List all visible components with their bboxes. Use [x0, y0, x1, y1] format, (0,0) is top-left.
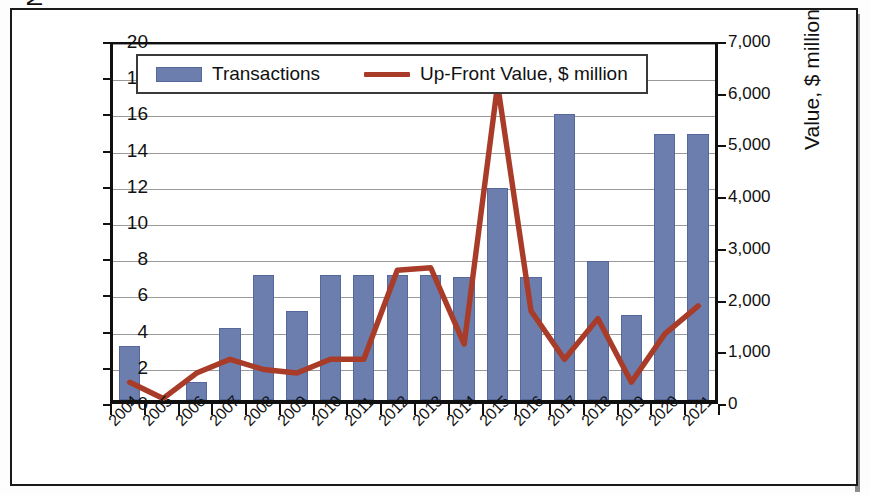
- y-axis-left-title: Number of Transactions: [22, 0, 52, 50]
- y-axis-right-tickmark: [718, 197, 726, 199]
- line-series: [113, 44, 715, 400]
- y-axis-right-tickmark: [718, 94, 726, 96]
- y-axis-left-tick-label: 6: [108, 285, 148, 304]
- y-axis-left-tickmark: [103, 42, 111, 44]
- y-axis-left-tickmark: [103, 78, 111, 80]
- y-axis-left-tick-label: 14: [108, 141, 148, 160]
- x-axis-labels: 2004200520062007200820092010201120122013…: [110, 417, 718, 477]
- legend-entry-up-front-value: Up-Front Value, $ million: [364, 63, 628, 85]
- legend-entry-transactions: Transactions: [156, 63, 320, 85]
- y-axis-left-tickmark: [103, 114, 111, 116]
- scanned-page: Number of Transactions Value, $ million …: [0, 0, 870, 495]
- y-axis-right-tick-label: 6,000: [728, 85, 798, 102]
- y-axis-left-tickmark: [103, 259, 111, 261]
- y-axis-right-tickmark: [718, 301, 726, 303]
- up-front-value-line: [130, 85, 699, 399]
- chart-legend: Transactions Up-Front Value, $ million: [136, 54, 648, 94]
- y-axis-left-tick-label: 8: [108, 249, 148, 268]
- y-axis-left-tick-label: 4: [108, 322, 148, 341]
- y-axis-left-tickmark: [103, 295, 111, 297]
- y-axis-right-tick-label: 1,000: [728, 343, 798, 360]
- y-axis-right-tick-label: 2,000: [728, 292, 798, 309]
- legend-label-up-front-value: Up-Front Value, $ million: [420, 63, 628, 85]
- y-axis-right-tick-label: 3,000: [728, 240, 798, 257]
- y-axis-left-tickmark: [103, 187, 111, 189]
- y-axis-left-tick-label: 16: [108, 104, 148, 123]
- combo-chart: Number of Transactions Value, $ million …: [0, 0, 870, 495]
- legend-bar-swatch-icon: [156, 67, 202, 82]
- y-axis-left-tick-label: 2: [108, 358, 148, 377]
- legend-line-swatch-icon: [364, 72, 410, 77]
- y-axis-right-tick-label: 0: [728, 395, 798, 412]
- y-axis-left-tick-label: 12: [108, 177, 148, 196]
- y-axis-left-tickmark: [103, 223, 111, 225]
- y-axis-right-tickmark: [718, 42, 726, 44]
- y-axis-right-tick-label: 5,000: [728, 136, 798, 153]
- y-axis-right-tickmark: [718, 352, 726, 354]
- y-axis-left-tickmark: [103, 332, 111, 334]
- x-axis-tickmark: [718, 404, 720, 415]
- y-axis-left-tick-label: 10: [108, 213, 148, 232]
- y-axis-left-tickmark: [103, 151, 111, 153]
- y-axis-right-tick-label: 7,000: [728, 33, 798, 50]
- plot-area: [110, 42, 718, 404]
- y-axis-right-tickmark: [718, 249, 726, 251]
- legend-label-transactions: Transactions: [212, 63, 320, 85]
- y-axis-left-tickmark: [103, 368, 111, 370]
- y-axis-right-title: Value, $ million: [800, 0, 828, 150]
- y-axis-right-tickmark: [718, 145, 726, 147]
- y-axis-left-tick-label: 20: [108, 32, 148, 51]
- y-axis-right-tick-label: 4,000: [728, 188, 798, 205]
